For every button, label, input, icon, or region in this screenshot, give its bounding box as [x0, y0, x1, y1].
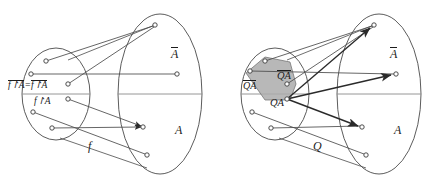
edge-right-6	[287, 99, 358, 126]
edge-right-3	[287, 27, 373, 84]
label-Abar-text: A	[171, 47, 178, 60]
label-f-restrict-Abar-left: f↾A	[8, 80, 24, 91]
label-codomain-Abar-right: A	[390, 47, 397, 60]
domain-node	[66, 97, 70, 101]
edge-left-1	[46, 26, 153, 61]
codomain-node	[360, 125, 364, 129]
label-Qbar-Abar: QA	[243, 80, 256, 91]
label-f-restrict-A: f↾A	[34, 97, 50, 107]
codomain-node	[394, 72, 398, 76]
diagram-svg	[0, 0, 438, 188]
domain-node	[248, 69, 252, 73]
label-QAbar-outside-text: QA	[243, 80, 256, 91]
domain-node	[44, 59, 48, 63]
codomain-node	[153, 23, 157, 27]
domain-node	[263, 59, 267, 63]
figure-canvas: f↾A=f↾A f↾A A A f QA QA QA A A Q	[0, 0, 438, 188]
codomain-node	[364, 153, 368, 157]
label-codomain-A-left: A	[175, 124, 182, 136]
codomain-node-group-left	[141, 23, 179, 157]
edge-left-6	[52, 127, 141, 128]
domain-node	[66, 82, 70, 86]
label-QAbar-shaded-text: QA	[277, 70, 291, 82]
edge-right-1	[265, 26, 372, 61]
cone-lower-left	[60, 138, 147, 168]
label-codomain-A-right: A	[394, 124, 401, 136]
left-panel	[22, 14, 202, 174]
codomain-node	[372, 23, 376, 27]
domain-node	[31, 110, 35, 114]
label-Abar-text-right: A	[390, 47, 397, 60]
edge-left-3	[68, 27, 154, 84]
right-panel	[241, 14, 421, 174]
domain-node	[285, 82, 289, 86]
domain-node	[50, 126, 54, 130]
domain-node	[285, 97, 289, 101]
label-codomain-Abar-left: A	[171, 47, 178, 60]
edge-left-4	[68, 99, 141, 126]
label-map-Q: Q	[313, 140, 322, 152]
label-QA-lower: QA	[270, 98, 284, 109]
label-QAbar-shaded: QA	[277, 70, 291, 82]
domain-node-group-left	[29, 59, 70, 130]
edge-right-4	[287, 28, 370, 99]
edge-group-left	[31, 26, 175, 154]
domain-node	[250, 110, 254, 114]
label-f-restrict-Abar-equality: f↾A=f↾A	[8, 80, 47, 91]
label-map-f: f	[88, 140, 91, 152]
codomain-node	[145, 153, 149, 157]
codomain-node	[175, 72, 179, 76]
edge-right-7	[271, 126, 360, 128]
cone-lower-right	[279, 138, 366, 168]
domain-node	[29, 72, 33, 76]
codomain-node	[141, 125, 145, 129]
edge-group-right-arrows	[287, 28, 391, 126]
domain-node	[269, 126, 273, 130]
edge-right-5	[287, 75, 391, 99]
codomain-node-group-right	[360, 23, 398, 157]
label-f-restrict-Abar-right: f↾A	[31, 80, 47, 91]
